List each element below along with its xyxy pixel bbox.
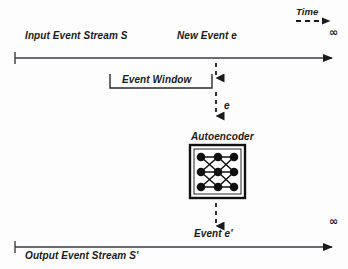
event-into-model-label: e — [224, 100, 230, 111]
neuron-node-icon — [197, 168, 206, 177]
neuron-node-icon — [230, 183, 239, 192]
autoencoder-nodes — [197, 153, 239, 192]
neuron-node-icon — [197, 183, 206, 192]
neuron-node-icon — [230, 168, 239, 177]
input-stream-infinity-symbol: ∞ — [329, 26, 338, 39]
autoencoder-label: Autoencoder — [191, 131, 254, 142]
diagram-canvas: Time ∞ Input Event Stream S New Event e … — [0, 0, 348, 269]
output-event-label: Event e' — [194, 228, 233, 239]
output-stream-label: Output Event Stream S' — [25, 250, 138, 261]
input-stream-axis-icon — [15, 52, 332, 64]
neuron-node-icon — [214, 168, 223, 177]
neuron-node-icon — [214, 153, 223, 162]
neuron-node-icon — [214, 183, 223, 192]
output-stream-infinity-symbol: ∞ — [329, 215, 338, 228]
input-stream-label: Input Event Stream S — [25, 30, 128, 41]
neuron-node-icon — [197, 153, 206, 162]
neuron-node-icon — [230, 153, 239, 162]
event-window-label: Event Window — [122, 74, 191, 85]
time-label: Time — [296, 6, 318, 17]
new-event-label: New Event e — [177, 30, 237, 41]
